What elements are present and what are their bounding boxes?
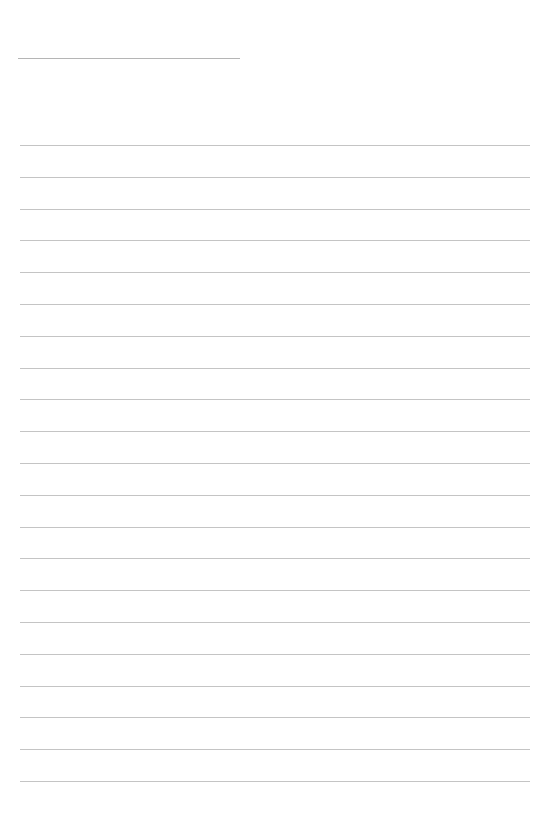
ruled-line: [20, 495, 530, 496]
ruled-line: [20, 336, 530, 337]
ruled-line: [20, 304, 530, 305]
ruled-line: [20, 240, 530, 241]
ruled-line: [20, 145, 530, 146]
ruled-line: [20, 463, 530, 464]
ruled-line: [20, 749, 530, 750]
ruled-line: [20, 399, 530, 400]
ruled-line: [20, 781, 530, 782]
ruled-line: [20, 654, 530, 655]
ruled-line: [20, 209, 530, 210]
header-line: [18, 58, 240, 59]
ruled-line: [20, 717, 530, 718]
ruled-line: [20, 431, 530, 432]
ruled-line: [20, 622, 530, 623]
ruled-line: [20, 272, 530, 273]
ruled-line: [20, 686, 530, 687]
ruled-line: [20, 527, 530, 528]
ruled-line: [20, 177, 530, 178]
ruled-line: [20, 590, 530, 591]
ruled-line: [20, 558, 530, 559]
ruled-line: [20, 368, 530, 369]
